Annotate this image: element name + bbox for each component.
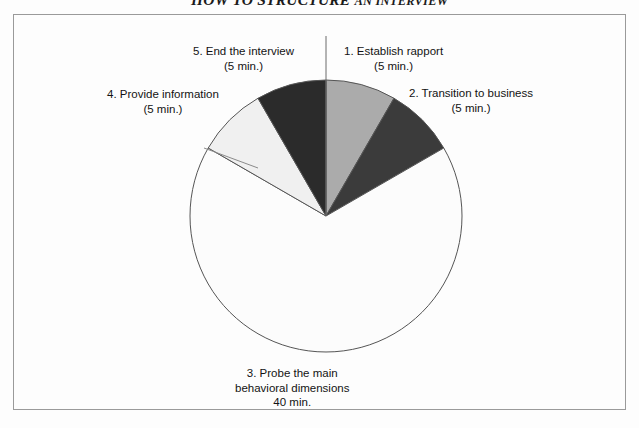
slice-label-1: 1. Establish rapport (5 min.)	[344, 44, 443, 73]
slice-label-2-line2: (5 min.)	[409, 101, 533, 116]
slice-label-4-line1: 4. Provide information	[107, 87, 219, 102]
slice-label-3: 3. Probe the main behavioral dimensions …	[235, 366, 349, 410]
slice-label-5-line1: 5. End the interview	[193, 44, 294, 59]
slice-label-3-line1: 3. Probe the main	[235, 366, 349, 381]
slice-label-5-line2: (5 min.)	[193, 59, 294, 74]
slice-label-1-line2: (5 min.)	[344, 59, 443, 74]
slice-label-4-line2: (5 min.)	[107, 102, 219, 117]
pie-chart	[0, 0, 639, 428]
slice-label-3-line3: 40 min.	[235, 395, 349, 410]
slice-label-1-line1: 1. Establish rapport	[344, 44, 443, 59]
figure-page: HOW TO STRUCTURE AN INTERVIEW 1. Establi…	[0, 0, 639, 428]
slice-label-4: 4. Provide information (5 min.)	[107, 87, 219, 116]
slice-label-5: 5. End the interview (5 min.)	[193, 44, 294, 73]
slice-label-2: 2. Transition to business (5 min.)	[409, 86, 533, 115]
slice-label-2-line1: 2. Transition to business	[409, 86, 533, 101]
slice-label-3-line2: behavioral dimensions	[235, 381, 349, 396]
pie-chart-canvas	[0, 0, 639, 428]
